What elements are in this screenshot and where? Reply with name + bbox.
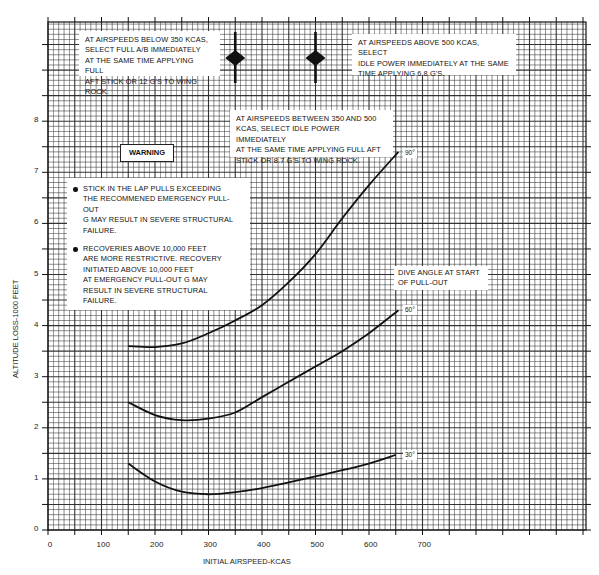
y-tick-label: 8 — [34, 115, 38, 124]
note-line: AT AIRSPEEDS BETWEEN 350 AND 500 — [236, 114, 387, 124]
x-tick-label: 400 — [257, 540, 270, 549]
note-between-350-500-kcas: AT AIRSPEEDS BETWEEN 350 AND 500 KCAS, S… — [230, 110, 393, 157]
x-tick-label: 100 — [97, 540, 110, 549]
note-line: TIME APPLYING 6.8 g's. — [358, 69, 510, 79]
y-tick-label: 4 — [34, 320, 38, 329]
note-line: AFT STICK OR 12 g's TO WING ROCK. — [85, 77, 214, 98]
note-line: FAILURE. — [83, 296, 117, 305]
note-line: SELECT FULL A/B IMMEDIATELY — [85, 45, 214, 55]
note-line: STICK OR 8.7 g's TO WING ROCK. — [236, 156, 387, 166]
curve-label-60-deg: 60° — [403, 305, 417, 315]
y-tick-label: 5 — [34, 269, 38, 278]
note-line: STICK IN THE LAP PULLS EXCEEDING — [83, 184, 221, 193]
note-line: RECOVERIES ABOVE 10,000 FEET — [83, 244, 207, 253]
note-line: OF PULL-OUT — [398, 278, 484, 288]
y-tick-label: 6 — [34, 217, 38, 226]
x-tick-label: 500 — [311, 540, 324, 549]
curve-label-30-deg: 30° — [403, 450, 417, 460]
note-line: AT THE SAME TIME APPLYING FULL AFT — [236, 145, 387, 155]
x-tick-label: 300 — [204, 540, 217, 549]
warning-bullet-altitude: RECOVERIES ABOVE 10,000 FEET ARE MORE RE… — [73, 244, 244, 306]
warning-bullet-structural: STICK IN THE LAP PULLS EXCEEDING THE REC… — [73, 184, 244, 236]
note-line: THE RECOMMENED EMERGENCY PULL-OUT — [83, 194, 230, 213]
x-axis-title: INITIAL AIRSPEED-KCAS — [203, 557, 291, 566]
note-line: G MAY RESULT IN SEVERE STRUCTURAL — [83, 215, 233, 224]
note-above-500-kcas: AT AIRSPEEDS ABOVE 500 KCAS, SELECT IDLE… — [352, 34, 516, 75]
note-line: AT AIRSPEEDS ABOVE 500 KCAS, SELECT — [358, 38, 510, 59]
note-below-350-kcas: AT AIRSPEEDS BELOW 350 KCAS, SELECT FULL… — [79, 31, 220, 76]
note-line: FAILURE. — [83, 226, 117, 235]
note-line: AT EMERGENCY PULL-OUT G MAY — [83, 275, 208, 284]
curve-label-90-deg: 90° — [403, 148, 417, 158]
warning-box: STICK IN THE LAP PULLS EXCEEDING THE REC… — [67, 178, 250, 310]
y-tick-label: 1 — [34, 473, 38, 482]
x-tick-label: 700 — [418, 540, 431, 549]
note-line: AT AIRSPEEDS BELOW 350 KCAS, — [85, 35, 214, 45]
note-line: ARE MORE RESTRICTIVE. RECOVERY — [83, 254, 222, 263]
y-tick-label: 7 — [34, 166, 38, 175]
x-tick-label: 600 — [364, 540, 377, 549]
note-line: DIVE ANGLE AT START — [398, 268, 484, 278]
note-line: AT THE SAME TIME APPLYING FULL — [85, 56, 214, 77]
y-axis-title: ALTITUDE LOSS-1000 FEET — [11, 280, 20, 378]
x-tick-label: 0 — [48, 540, 52, 549]
note-line: KCAS, SELECT IDLE POWER IMMEDIATELY — [236, 124, 387, 145]
legend-dive-angle: DIVE ANGLE AT START OF PULL-OUT — [394, 266, 488, 290]
warning-title: WARNING — [120, 144, 174, 162]
y-tick-label: 2 — [34, 422, 38, 431]
note-line: IDLE POWER IMMEDIATELY AT THE SAME — [358, 59, 510, 69]
y-tick-label: 0 — [34, 524, 38, 533]
x-tick-label: 200 — [150, 540, 163, 549]
y-tick-label: 3 — [34, 371, 38, 380]
note-line: RESULT IN SEVERE STRUCTURAL — [83, 286, 207, 295]
note-line: INITIATED ABOVE 10,000 FEET — [83, 265, 194, 274]
curve-60-deg — [128, 310, 398, 420]
